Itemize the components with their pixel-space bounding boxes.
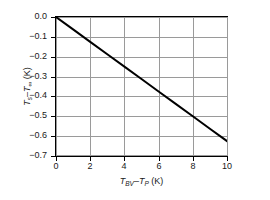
x-axis-label: TBV–TP (K) [55, 175, 228, 188]
y-tick-mark [51, 17, 55, 18]
x-tick-label: 6 [144, 161, 174, 172]
x-tick-label: 0 [41, 161, 71, 172]
data-line-series [56, 17, 227, 156]
y-tick-mark [51, 77, 55, 78]
y-axis-symbol-2: T [22, 86, 32, 92]
y-tick-mark [51, 156, 55, 157]
gridline-vertical [227, 17, 228, 156]
y-axis-unit: (K) [22, 67, 32, 79]
y-tick-mark [51, 96, 55, 97]
y-axis-label: Ts–T∞ (K) [21, 7, 34, 167]
x-tick-label: 10 [212, 161, 242, 172]
y-tick-mark [51, 116, 55, 117]
x-tick-label: 2 [75, 161, 105, 172]
x-axis-subscript-2: P [144, 180, 148, 187]
x-axis-subscript-1: BV [125, 180, 134, 187]
y-axis-subscript-2: ∞ [26, 82, 33, 87]
y-tick-mark [51, 57, 55, 58]
y-axis-symbol-1: T [22, 100, 32, 106]
chart-figure: 0246810 0.0−0.1−0.2−0.3−0.4−0.5−0.6−0.7 … [0, 0, 270, 200]
series-polyline [56, 17, 227, 141]
series-layer [56, 17, 227, 156]
x-tick-label: 8 [178, 161, 208, 172]
x-axis-unit: (K) [151, 176, 163, 186]
y-tick-mark [51, 37, 55, 38]
x-tick-label: 4 [109, 161, 139, 172]
y-tick-mark [51, 136, 55, 137]
plot-area [55, 16, 228, 157]
y-axis-subscript-1: s [26, 97, 33, 100]
